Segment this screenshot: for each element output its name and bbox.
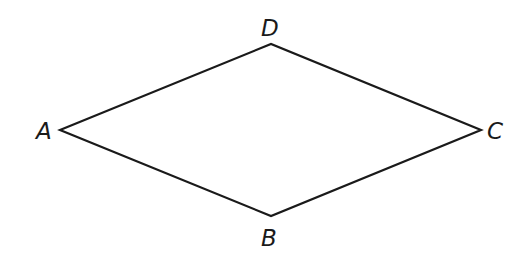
vertex-label-c: C [487,118,503,144]
vertex-label-b: B [261,225,277,251]
rhombus-diagram: A D C B [0,0,522,262]
vertex-label-a: A [34,118,52,144]
rhombus-abcd [60,44,481,216]
vertex-label-d: D [261,15,279,41]
